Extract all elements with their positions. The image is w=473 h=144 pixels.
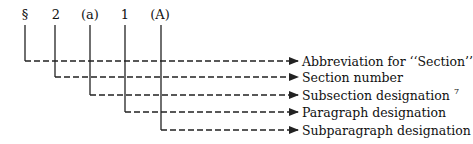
symbol-section-number: 2	[52, 7, 60, 22]
symbol-subsection: (a)	[81, 7, 99, 22]
label-subsection-text: Subsection designation	[302, 88, 450, 103]
footnote-marker: 7	[454, 87, 459, 96]
label-section-number: Section number	[302, 70, 403, 85]
label-subsection: Subsection designation 7	[302, 87, 459, 102]
label-paragraph: Paragraph designation	[302, 105, 446, 120]
symbol-subparagraph: (A)	[150, 7, 170, 22]
label-abbreviation: Abbreviation for ‘‘Section’’	[302, 54, 473, 69]
symbol-paragraph: 1	[121, 7, 129, 22]
label-subparagraph: Subparagraph designation	[302, 123, 471, 138]
symbol-section: §	[22, 7, 29, 22]
